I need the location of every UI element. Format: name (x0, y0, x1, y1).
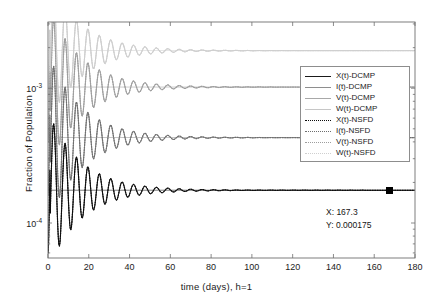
legend-line-swatch (305, 93, 331, 103)
x-tick-label: 80 (191, 262, 231, 272)
x-tick-label: 160 (354, 262, 394, 272)
legend-entry[interactable]: V(t)-DCMP (301, 92, 409, 103)
x-tick-label: 20 (69, 262, 109, 272)
legend-entry-label: V(t)-DCMP (336, 93, 375, 103)
legend-entry-label: I(t)-DCMP (336, 82, 372, 92)
legend-entry[interactable]: I(t)-NSFD (301, 125, 409, 136)
y-tick-label: 10-4 (8, 217, 42, 229)
legend-line-swatch (305, 82, 331, 92)
y-tick-label: 10-3 (8, 82, 42, 94)
x-tick-label: 40 (110, 262, 150, 272)
legend-entry-label: I(t)-NSFD (336, 126, 370, 136)
legend-entry-label: W(t)-NSFD (336, 148, 376, 158)
legend-line-swatch (305, 115, 331, 125)
x-tick-label: 120 (273, 262, 313, 272)
legend-entry[interactable]: W(t)-NSFD (301, 147, 409, 158)
x-tick-label: 180 (395, 262, 433, 272)
legend-line-swatch (305, 148, 331, 158)
x-axis-label: time (days), h=1 (0, 281, 433, 292)
legend-entry[interactable]: V(t)-NSFD (301, 136, 409, 147)
figure-canvas: Fraction of Population time (days), h=1 … (0, 0, 433, 301)
legend-entry[interactable]: X(t)-DCMP (301, 70, 409, 81)
legend-line-swatch (305, 104, 331, 114)
legend-entry[interactable]: W(t)-DCMP (301, 103, 409, 114)
legend-line-swatch (305, 137, 331, 147)
data-cursor-x: X: 167.3 (326, 206, 371, 219)
legend-line-swatch (305, 71, 331, 81)
data-cursor-y: Y: 0.000175 (326, 219, 371, 232)
x-tick-label: 100 (232, 262, 272, 272)
data-cursor-marker[interactable] (386, 187, 393, 194)
x-tick-label: 0 (28, 262, 68, 272)
legend-entry-label: W(t)-DCMP (336, 104, 377, 114)
legend-entry[interactable]: I(t)-DCMP (301, 81, 409, 92)
data-cursor-tooltip: X: 167.3 Y: 0.000175 (326, 206, 371, 232)
legend-box[interactable]: X(t)-DCMPI(t)-DCMPV(t)-DCMPW(t)-DCMPX(t)… (300, 66, 410, 162)
legend-entry-label: V(t)-NSFD (336, 137, 373, 147)
legend-entry[interactable]: X(t)-NSFD (301, 114, 409, 125)
legend-line-swatch (305, 126, 331, 136)
x-tick-label: 60 (150, 262, 190, 272)
x-tick-label: 140 (313, 262, 353, 272)
legend-entry-label: X(t)-NSFD (336, 115, 373, 125)
legend-entry-label: X(t)-DCMP (336, 71, 375, 81)
